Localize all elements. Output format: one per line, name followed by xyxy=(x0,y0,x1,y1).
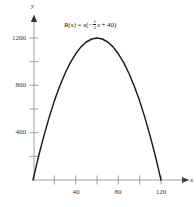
y-tick-label-1200: 1200 xyxy=(4,34,26,42)
x-tick-label-40: 40 xyxy=(69,188,83,196)
y-tick-label-400: 400 xyxy=(4,128,26,136)
equation-fraction-variable: x xyxy=(97,21,100,29)
equation-minus-sign: − xyxy=(88,21,92,29)
equation-equals: = xyxy=(78,21,82,29)
x-axis-arrow xyxy=(182,177,190,183)
x-tick-label-80: 80 xyxy=(111,188,125,196)
y-tick-label-800: 800 xyxy=(4,81,26,89)
parabola-curve xyxy=(33,38,161,180)
equation-fraction: 1 3 xyxy=(93,19,97,30)
equation-function-name: R(x) xyxy=(64,21,76,29)
equation-constant: 40 xyxy=(107,21,114,29)
y-axis-label: y xyxy=(31,2,34,10)
parabola-plot xyxy=(0,0,196,207)
x-tick-label-120: 120 xyxy=(153,188,169,196)
equation-plus-sign: + xyxy=(102,21,106,29)
equation-close-paren: ) xyxy=(114,21,116,29)
x-axis-label: x xyxy=(190,176,193,184)
chart-figure: y x 1200 800 400 40 80 120 R(x) = x ( − … xyxy=(0,0,196,207)
equation-fraction-denominator: 3 xyxy=(93,24,97,30)
equation-annotation: R(x) = x ( − 1 3 x + 40 ) xyxy=(64,19,116,30)
y-axis-arrow xyxy=(31,15,37,23)
